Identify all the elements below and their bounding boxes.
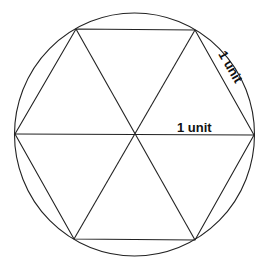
radius-label: 1 unit	[177, 120, 212, 135]
side-label: 1 unit	[215, 48, 246, 86]
hexagon-circle-figure: 1 unit 1 unit	[0, 0, 262, 267]
diagram-canvas: 1 unit 1 unit	[0, 0, 262, 267]
